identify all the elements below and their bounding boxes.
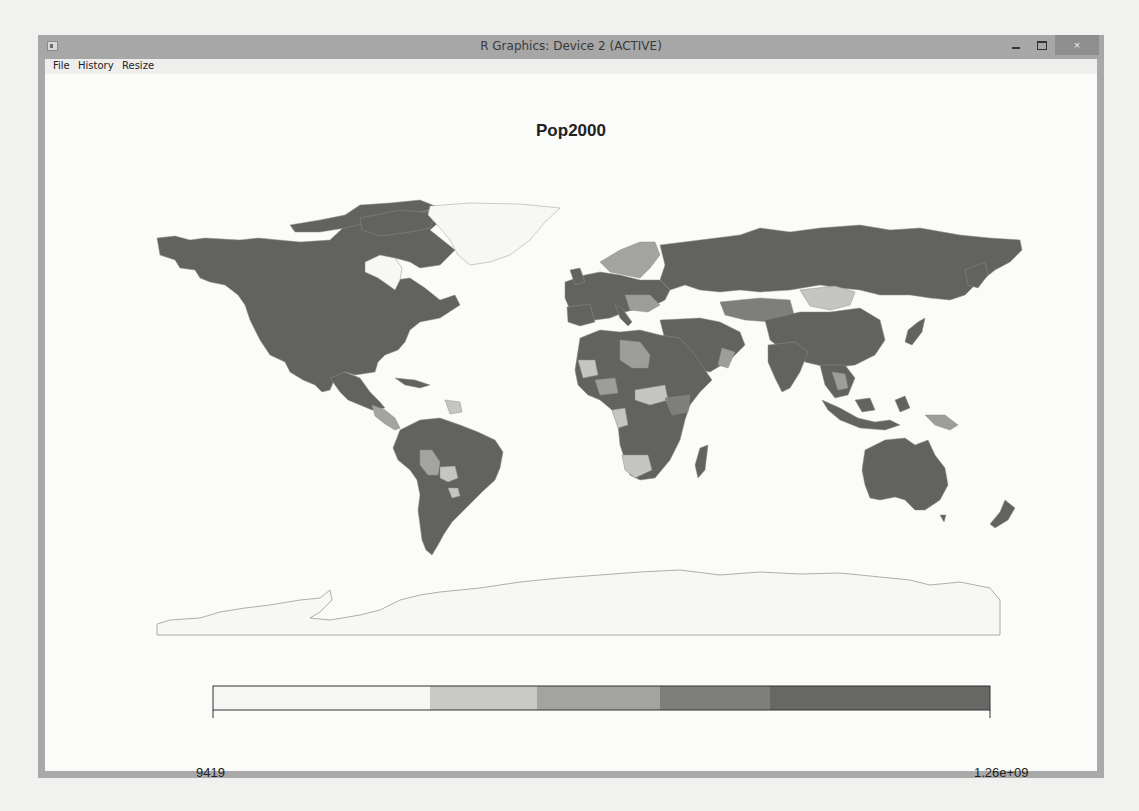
legend-max-label: 1.26e+09	[974, 765, 1029, 780]
world-map	[45, 59, 1097, 771]
minimize-icon	[1012, 47, 1020, 49]
antarctica	[157, 570, 1000, 635]
maximize-icon	[1037, 41, 1047, 50]
north-america	[157, 208, 460, 392]
close-icon: ×	[1074, 39, 1080, 51]
color-legend	[213, 686, 990, 718]
australia	[862, 438, 948, 510]
window-title: R Graphics: Device 2 (ACTIVE)	[38, 39, 1104, 53]
close-button[interactable]: ×	[1055, 35, 1099, 55]
minimize-button[interactable]	[1003, 35, 1029, 55]
graphics-device-area: File History Resize Pop2000	[45, 59, 1097, 771]
south-america	[393, 418, 503, 555]
legend-min-label: 9419	[196, 765, 225, 780]
title-bar[interactable]: R Graphics: Device 2 (ACTIVE) ×	[38, 35, 1104, 59]
r-graphics-window: R Graphics: Device 2 (ACTIVE) × File His…	[38, 35, 1104, 778]
maximize-button[interactable]	[1029, 35, 1055, 55]
